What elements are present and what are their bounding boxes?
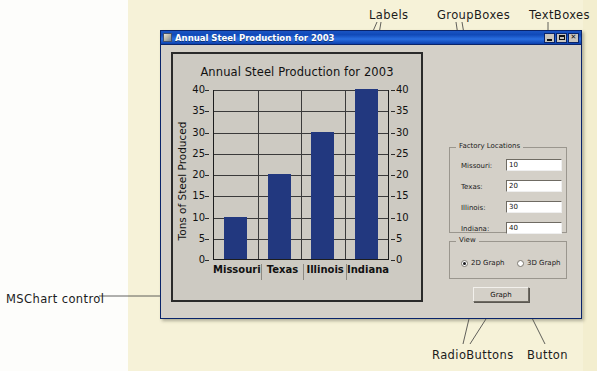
annotation-textboxes: TextBoxes bbox=[529, 8, 590, 22]
chart-plot-area bbox=[213, 90, 389, 260]
y-tickmark-left bbox=[205, 239, 209, 240]
x-label-indiana: Indiana bbox=[347, 264, 389, 280]
label-illinois: Illinois: bbox=[461, 204, 486, 212]
textbox-texas[interactable]: 20 bbox=[506, 180, 562, 192]
y-tickmark-left bbox=[205, 90, 209, 91]
annotation-groupboxes: GroupBoxes bbox=[437, 8, 510, 22]
y-tick-right-35: 35 bbox=[396, 106, 409, 116]
bar-illinois bbox=[311, 132, 334, 260]
radio-2d-graph-indicator[interactable] bbox=[461, 260, 468, 267]
category-divider bbox=[258, 90, 259, 259]
radio-3d-graph-indicator[interactable] bbox=[517, 260, 524, 267]
y-tickmark-left bbox=[205, 260, 209, 261]
y-tickmark-right bbox=[391, 90, 395, 91]
y-tickmark-right bbox=[391, 218, 395, 219]
y-tick-right-0: 0 bbox=[396, 255, 402, 265]
category-divider bbox=[301, 90, 302, 259]
y-tick-left-15: 15 bbox=[192, 191, 205, 201]
y-tickmark-right bbox=[391, 154, 395, 155]
y-tickmark-left bbox=[205, 111, 209, 112]
annotation-labels: Labels bbox=[369, 8, 408, 22]
y-tick-left-30: 30 bbox=[192, 128, 205, 138]
minimize-button[interactable] bbox=[544, 33, 555, 43]
label-indiana: Indiana: bbox=[461, 225, 489, 233]
groupbox-factory-locations-title: Factory Locations bbox=[456, 142, 523, 150]
y-tick-right-30: 30 bbox=[396, 128, 409, 138]
application-window: Annual Steel Production for 2003 ✕ Annua… bbox=[160, 30, 582, 319]
page-margin-left bbox=[0, 0, 128, 371]
y-tick-left-25: 25 bbox=[192, 149, 205, 159]
label-texas: Texas: bbox=[461, 183, 483, 191]
mschart-control[interactable]: Annual Steel Production for 2003 Tons of… bbox=[171, 52, 423, 302]
annotation-button: Button bbox=[527, 348, 568, 362]
y-tick-left-10: 10 bbox=[192, 213, 205, 223]
y-tick-right-20: 20 bbox=[396, 170, 409, 180]
y-tickmark-right bbox=[391, 196, 395, 197]
y-tickmark-left bbox=[205, 196, 209, 197]
radio-3d-graph-label: 3D Graph bbox=[527, 259, 561, 267]
y-tick-right-10: 10 bbox=[396, 213, 409, 223]
y-tick-right-40: 40 bbox=[396, 85, 409, 95]
annotation-mschart-control: MSChart control bbox=[6, 292, 104, 306]
bar-missouri bbox=[224, 217, 247, 260]
page-background-right-edge bbox=[583, 0, 597, 371]
x-label-missouri: Missouri bbox=[213, 264, 262, 280]
y-tick-left-20: 20 bbox=[192, 170, 205, 180]
y-tickmark-left bbox=[205, 175, 209, 176]
y-axis-ticks-left: 4035302520151050 bbox=[189, 90, 209, 260]
window-title-bar[interactable]: Annual Steel Production for 2003 ✕ bbox=[161, 31, 581, 45]
y-tickmark-left bbox=[205, 218, 209, 219]
textbox-missouri[interactable]: 10 bbox=[506, 159, 562, 171]
radio-2d-graph[interactable]: 2D Graph bbox=[461, 259, 505, 267]
annotation-radiobuttons: RadioButtons bbox=[432, 348, 514, 362]
x-label-texas: Texas bbox=[262, 264, 305, 280]
maximize-button[interactable] bbox=[556, 33, 567, 43]
label-missouri: Missouri: bbox=[461, 162, 492, 170]
y-tick-left-40: 40 bbox=[192, 85, 205, 95]
y-tickmark-right bbox=[391, 175, 395, 176]
graph-button[interactable]: Graph bbox=[473, 287, 529, 302]
radio-3d-graph[interactable]: 3D Graph bbox=[517, 259, 561, 267]
y-tickmark-right bbox=[391, 260, 395, 261]
y-tick-left-35: 35 bbox=[192, 106, 205, 116]
y-axis-ticks-right: 4035302520151050 bbox=[391, 90, 411, 260]
window-title: Annual Steel Production for 2003 bbox=[175, 33, 335, 43]
y-tickmark-left bbox=[205, 154, 209, 155]
y-tickmark-right bbox=[391, 133, 395, 134]
y-tickmark-left bbox=[205, 133, 209, 134]
textbox-indiana[interactable]: 40 bbox=[506, 222, 562, 234]
chart-title: Annual Steel Production for 2003 bbox=[173, 65, 421, 79]
window-controls: ✕ bbox=[544, 33, 579, 43]
textbox-illinois[interactable]: 30 bbox=[506, 201, 562, 213]
y-axis-label: Tons of Steel Produced bbox=[175, 96, 189, 266]
bar-indiana bbox=[355, 89, 378, 259]
category-divider bbox=[345, 90, 346, 259]
y-tick-right-15: 15 bbox=[396, 191, 409, 201]
x-label-illinois: Illinois bbox=[304, 264, 347, 280]
x-axis-category-labels: MissouriTexasIllinoisIndiana bbox=[213, 264, 389, 280]
groupbox-view-title: View bbox=[456, 236, 479, 244]
close-icon[interactable]: ✕ bbox=[568, 33, 579, 43]
application-icon bbox=[163, 33, 172, 42]
y-tickmark-right bbox=[391, 239, 395, 240]
radio-2d-graph-label: 2D Graph bbox=[471, 259, 505, 267]
y-tickmark-right bbox=[391, 111, 395, 112]
chart-plot-wrapper: Tons of Steel Produced 4035302520151050 … bbox=[173, 88, 421, 300]
y-tick-right-25: 25 bbox=[396, 149, 409, 159]
y-tick-right-5: 5 bbox=[396, 234, 402, 244]
bar-texas bbox=[268, 174, 291, 259]
